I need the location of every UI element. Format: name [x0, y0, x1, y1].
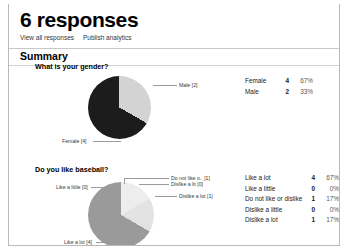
leader-line-like-lot — [96, 242, 126, 243]
row-percent: 0% — [321, 185, 339, 192]
row-percent: 33% — [295, 88, 313, 95]
leader-line-male — [153, 85, 177, 86]
pie-label-male: Male [2] — [179, 82, 197, 88]
leader-line-female — [93, 141, 121, 142]
row-percent: 17% — [321, 216, 339, 223]
pie-label-female: Female [4] — [62, 138, 87, 144]
leader-line-donotlike — [124, 178, 169, 179]
pie-chart-baseball — [88, 182, 154, 246]
row-count: 4 — [279, 77, 289, 84]
pie-chart-gender — [88, 76, 151, 139]
question-title-baseball: Do you like baseball? — [35, 165, 109, 174]
leader-line-dislike-little — [139, 184, 169, 185]
nav-view-all-responses[interactable]: View all responses — [20, 34, 74, 41]
row-percent: 67% — [295, 77, 313, 84]
row-label: Dislike a lot — [245, 216, 278, 223]
nav-publish-analytics[interactable]: Publish analytics — [83, 34, 131, 41]
row-label: Dislike a little — [245, 206, 282, 213]
pie-label-like-a-lot: Like a lot [4] — [64, 239, 92, 245]
row-percent: 0% — [321, 206, 339, 213]
page-title: 6 responses — [20, 8, 138, 32]
analytics-panel: 6 responses View all responses Publish a… — [8, 4, 340, 246]
row-count: 0 — [305, 206, 315, 213]
row-label: Male — [245, 88, 259, 95]
row-label: Female — [245, 77, 266, 84]
row-count: 4 — [305, 174, 315, 181]
row-label: Like a lot — [245, 174, 271, 181]
row-percent: 17% — [321, 195, 339, 202]
row-label: Do not like or dislike — [245, 195, 302, 202]
question-title-gender: What is your gender? — [35, 62, 108, 71]
pie-label-dislike-a-lot: Dislike a lot [1] — [179, 193, 213, 199]
row-percent: 67% — [321, 174, 339, 181]
pie-label-dislike-a-little: Dislike a lit [0] — [171, 181, 203, 187]
summary-heading: Summary — [20, 50, 68, 62]
row-count: 0 — [305, 185, 315, 192]
pie-label-like-a-little: Like a little [0] — [56, 184, 88, 190]
row-count: 1 — [305, 216, 315, 223]
leader-line-like-little — [91, 187, 109, 188]
leader-line-dislike-lot — [155, 196, 177, 197]
header-divider — [9, 48, 339, 49]
row-count: 2 — [279, 88, 289, 95]
nav-links: View all responses Publish analytics — [9, 34, 339, 47]
row-label: Like a little — [245, 185, 275, 192]
row-count: 1 — [305, 195, 315, 202]
